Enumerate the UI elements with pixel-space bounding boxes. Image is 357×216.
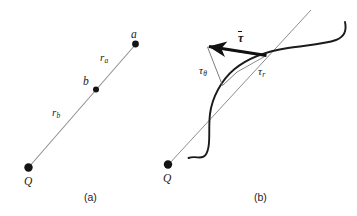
panel-a-ra-base: r (100, 51, 104, 63)
panel-b-tau-theta-label: τθ (199, 65, 207, 78)
panel-a-radial-line (29, 45, 136, 168)
panel-a-group (24, 41, 139, 172)
panel-a-charge-q-label: Q (24, 176, 32, 188)
panel-a-caption: (a) (84, 192, 97, 203)
panel-b-tau-r-label: τr (258, 66, 265, 79)
panel-b-tau-symbol: τ (238, 32, 243, 44)
panel-b-charge-q-label: Q (163, 173, 171, 185)
panel-b-trajectory-curve (189, 22, 346, 158)
panel-a-ra-subscript: a (105, 56, 109, 65)
panel-a-rb-subscript: b (57, 111, 61, 120)
figure-root: a b ra rb Q (a) τ τθ τr Q (b) (0, 0, 357, 216)
panel-a-distance-rb-label: rb (52, 107, 60, 120)
panel-b-construction-line-theta (208, 47, 223, 86)
panel-a-point-a-dot (132, 41, 139, 48)
panel-a-point-b-dot (93, 87, 99, 93)
panel-b-tau-glyph: τ (238, 31, 243, 45)
panel-b-charge-q-dot (164, 160, 172, 168)
panel-b-tau-vector-arrow (209, 47, 267, 56)
panel-b-tau-r-subscript: r (262, 70, 265, 79)
panel-b-group (164, 10, 346, 169)
panel-a-charge-q-dot (24, 163, 32, 171)
panel-b-tau-theta-subscript: θ (203, 69, 207, 78)
panel-b-tau-vector-label: τ (238, 29, 243, 45)
panel-a-point-b-label: b (83, 76, 89, 88)
panel-a-point-a-label: a (131, 29, 137, 41)
panel-a-rb-base: r (52, 106, 56, 118)
panel-a-distance-ra-label: ra (100, 52, 108, 65)
panel-b-caption: (b) (254, 192, 267, 203)
vector-overbar-icon (238, 31, 242, 33)
